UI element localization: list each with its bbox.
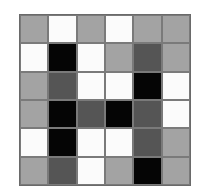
grid-cell-r2-c2	[77, 72, 105, 100]
grid-cell-r3-c4	[133, 100, 161, 128]
grid-cell-r4-c0	[20, 128, 48, 156]
grid-cell-r5-c1	[48, 157, 76, 185]
grid-cell-r1-c3	[105, 43, 133, 71]
grid-cell-r2-c3	[105, 72, 133, 100]
grid-cell-r0-c2	[77, 15, 105, 43]
grid-cell-r2-c5	[162, 72, 190, 100]
grid-cell-r4-c3	[105, 128, 133, 156]
grid-cell-r5-c2	[77, 157, 105, 185]
grid-cell-r0-c1	[48, 15, 76, 43]
grid-cell-r3-c1	[48, 100, 76, 128]
grid-cell-r4-c1	[48, 128, 76, 156]
grid-cell-r3-c0	[20, 100, 48, 128]
grid-cell-r1-c2	[77, 43, 105, 71]
grid-cell-r5-c3	[105, 157, 133, 185]
grid-cell-r0-c4	[133, 15, 161, 43]
grid-cell-r2-c4	[133, 72, 161, 100]
grid-cell-r5-c5	[162, 157, 190, 185]
grid-cell-r3-c3	[105, 100, 133, 128]
grid-cell-r2-c0	[20, 72, 48, 100]
grid-cell-r5-c0	[20, 157, 48, 185]
shade-grid	[19, 14, 191, 186]
grid-cell-r0-c5	[162, 15, 190, 43]
grid-cell-r0-c3	[105, 15, 133, 43]
grid-cell-r5-c4	[133, 157, 161, 185]
grid-cell-r1-c4	[133, 43, 161, 71]
grid-cell-r1-c5	[162, 43, 190, 71]
grid-cell-r4-c2	[77, 128, 105, 156]
grid-cell-r2-c1	[48, 72, 76, 100]
grid-cell-r4-c5	[162, 128, 190, 156]
grid-cell-r0-c0	[20, 15, 48, 43]
grid-cell-r3-c2	[77, 100, 105, 128]
grid-cell-r1-c0	[20, 43, 48, 71]
grid-cell-r4-c4	[133, 128, 161, 156]
grid-cell-r1-c1	[48, 43, 76, 71]
grid-cell-r3-c5	[162, 100, 190, 128]
